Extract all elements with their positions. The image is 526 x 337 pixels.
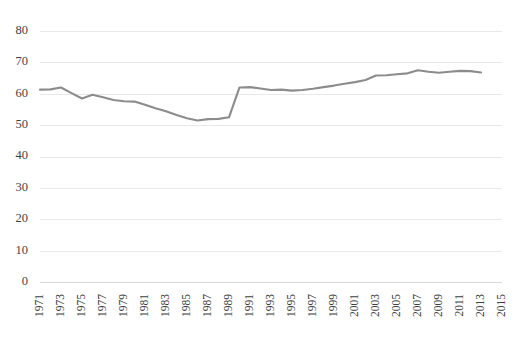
- x-axis-labels-group: 1971197319751977197919811983198519871989…: [33, 294, 507, 317]
- chart-canvas: 80706050403020100 1971197319751977197919…: [0, 0, 526, 337]
- x-axis-tick-label: 1989: [222, 294, 234, 317]
- x-axis-tick-label: 1995: [285, 294, 297, 317]
- x-axis-tick-label: 1993: [264, 294, 276, 317]
- x-axis-tick-label: 1999: [327, 294, 339, 317]
- x-axis-tick-label: 1971: [33, 294, 45, 317]
- x-axis-tick-label: 2009: [432, 294, 444, 317]
- x-axis-tick-label: 2003: [369, 294, 381, 317]
- y-axis-tick-label: 10: [16, 243, 29, 257]
- line-chart: 80706050403020100 1971197319751977197919…: [0, 0, 526, 337]
- x-axis-tick-label: 1975: [75, 294, 87, 317]
- x-axis-tick-label: 1987: [201, 294, 213, 317]
- x-axis-tick-label: 2005: [390, 294, 402, 317]
- x-axis-tick-label: 2011: [453, 294, 465, 317]
- y-axis-tick-label: 0: [22, 274, 28, 288]
- gridlines-group: [40, 32, 502, 283]
- series-line-path: [40, 70, 481, 120]
- x-axis-tick-label: 2015: [495, 294, 507, 317]
- x-axis-tick-label: 2007: [411, 294, 423, 317]
- y-axis-tick-label: 60: [16, 86, 29, 100]
- y-axis-tick-label: 50: [16, 117, 29, 131]
- series-group: [40, 70, 481, 120]
- y-axis-tick-label: 30: [16, 180, 29, 194]
- x-axis-tick-label: 1991: [243, 294, 255, 317]
- y-axis-tick-label: 40: [16, 148, 29, 162]
- x-axis-tick-label: 1997: [306, 294, 318, 317]
- y-axis-tick-label: 80: [16, 23, 29, 37]
- x-axis-tick-label: 1973: [54, 294, 66, 317]
- x-axis-tick-label: 2001: [348, 294, 360, 317]
- y-axis-tick-label: 70: [16, 54, 29, 68]
- x-axis-tick-label: 1983: [159, 294, 171, 317]
- x-axis-tick-label: 1977: [96, 294, 108, 317]
- x-axis-tick-label: 1979: [117, 294, 129, 317]
- x-axis-tick-label: 1981: [138, 294, 150, 317]
- y-axis-labels-group: 80706050403020100: [16, 23, 29, 288]
- y-axis-tick-label: 20: [16, 211, 29, 225]
- x-axis-tick-label: 1985: [180, 294, 192, 317]
- x-axis-tick-label: 2013: [474, 294, 486, 317]
